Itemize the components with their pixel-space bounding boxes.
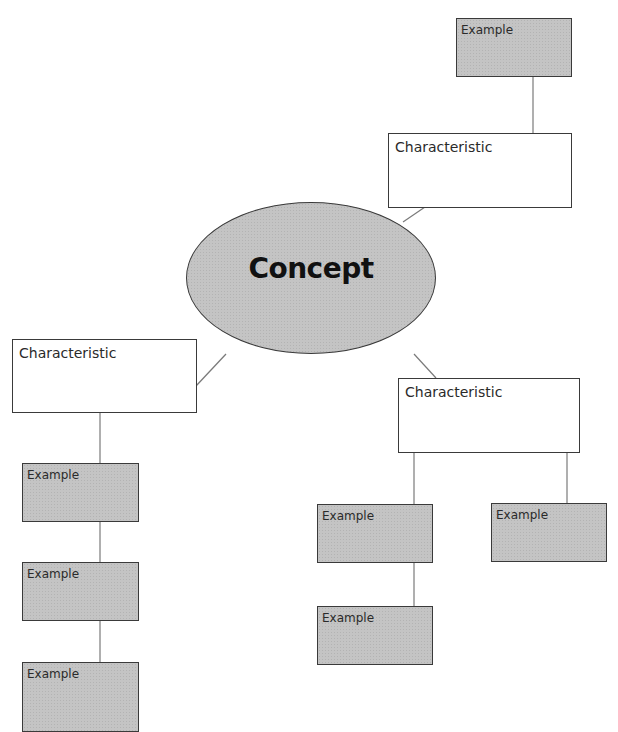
- example-node: Example: [317, 504, 433, 563]
- concept-label: Concept: [248, 252, 373, 285]
- example-node: Example: [456, 18, 572, 77]
- example-node: Example: [22, 463, 139, 522]
- example-label: Example: [27, 468, 79, 482]
- characteristic-node: Characteristic: [388, 133, 572, 208]
- example-node: Example: [22, 662, 139, 732]
- characteristic-node: Characteristic: [398, 378, 580, 453]
- example-label: Example: [27, 567, 79, 581]
- example-node: Example: [22, 562, 139, 621]
- example-node: Example: [317, 606, 433, 665]
- characteristic-label: Characteristic: [19, 345, 116, 361]
- example-node: Example: [491, 503, 607, 562]
- example-label: Example: [322, 611, 374, 625]
- example-label: Example: [27, 667, 79, 681]
- concept-node: Concept: [186, 202, 436, 354]
- example-label: Example: [496, 508, 548, 522]
- example-label: Example: [322, 509, 374, 523]
- characteristic-label: Characteristic: [395, 139, 492, 155]
- example-label: Example: [461, 23, 513, 37]
- characteristic-node: Characteristic: [12, 339, 197, 413]
- characteristic-label: Characteristic: [405, 384, 502, 400]
